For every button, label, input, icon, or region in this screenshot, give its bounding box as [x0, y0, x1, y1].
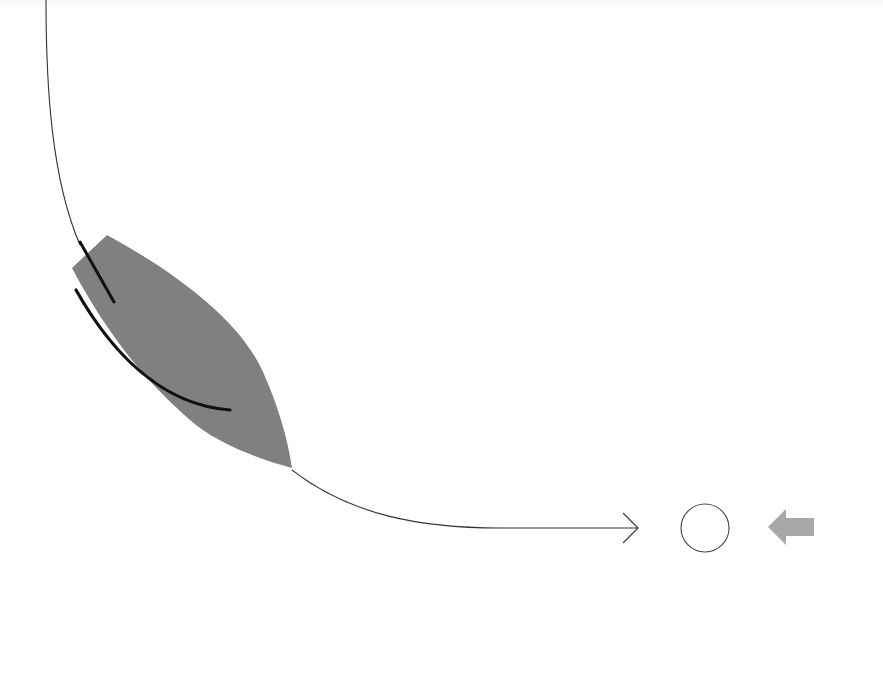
circle-icon [681, 504, 729, 552]
leaf-shape [72, 235, 292, 468]
curve-path-lower [292, 470, 638, 528]
left-arrow-icon[interactable] [768, 509, 814, 545]
curve-path-upper [46, 0, 80, 245]
diagram-canvas [0, 0, 883, 692]
